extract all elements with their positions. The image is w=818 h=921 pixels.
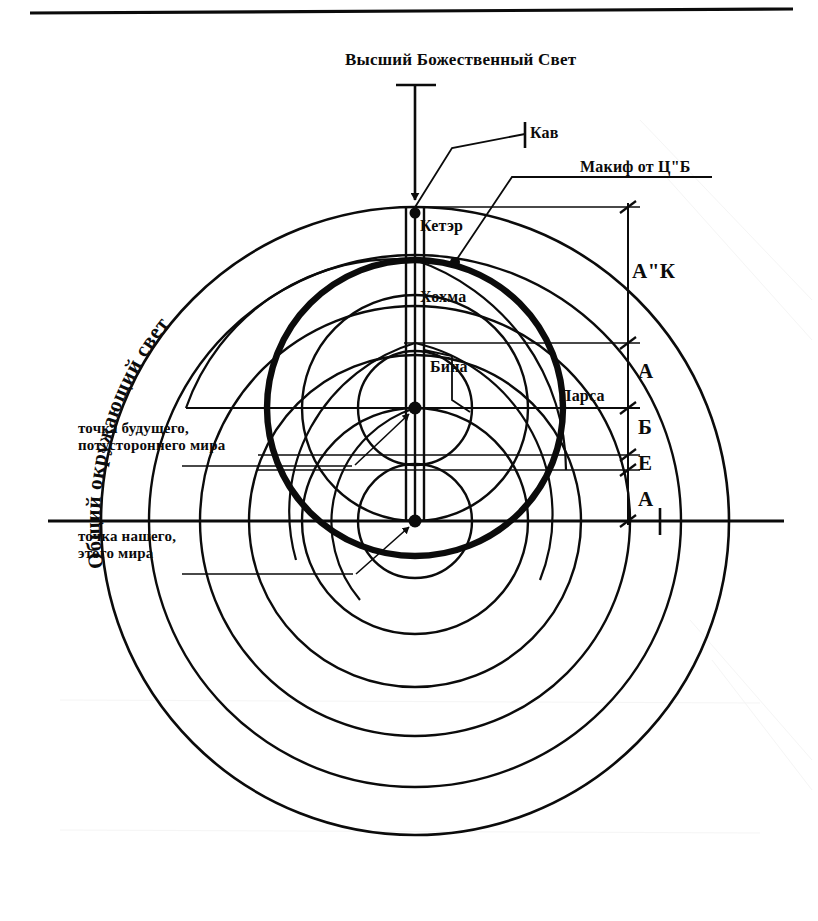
annotation-future-world: точка будущего, потустороннего мира xyxy=(78,420,225,454)
annotation-our-world: точка нашего, этого мира xyxy=(78,528,176,562)
kav-leader xyxy=(412,122,525,212)
radial-arc-inner-left xyxy=(289,343,415,560)
parsa-label: Парса xyxy=(559,387,605,405)
future-world-dot xyxy=(409,402,422,415)
annotation-future-world-line2: потустороннего мира xyxy=(78,437,225,454)
diagram-title: Высший Божественный Свет xyxy=(345,50,576,69)
annotation-future-world-line1: точка будущего, xyxy=(78,420,225,437)
annotation-our-world-line2: этого мира xyxy=(78,545,176,562)
makif-label: Макиф от Ц"Б xyxy=(580,158,691,176)
keter-label: Кетэр xyxy=(420,217,463,235)
diagram-page: Общий окружающий свет Высший Божественны… xyxy=(0,0,818,921)
scale-label-assiya: А xyxy=(638,488,654,512)
our-world-dot xyxy=(409,515,422,528)
annotation-our-world-line1: точка нашего, xyxy=(78,528,176,545)
scale-label-yetzira: Е xyxy=(638,452,653,476)
radial-arc-left xyxy=(186,259,415,408)
diagram-canvas xyxy=(0,0,818,921)
kav-label: Кав xyxy=(530,124,559,142)
page-top-rule xyxy=(30,9,793,13)
keter-marker xyxy=(410,208,421,219)
hochma-label: Хохма xyxy=(420,288,466,306)
level-lines-group xyxy=(186,207,640,470)
scale-label-bria: Б xyxy=(638,416,652,440)
scale-label-atzilut: А xyxy=(638,360,654,384)
radial-arc-small xyxy=(331,408,415,600)
scale-label-ak: А"К xyxy=(632,260,676,284)
bina-label: Бина xyxy=(430,358,468,376)
